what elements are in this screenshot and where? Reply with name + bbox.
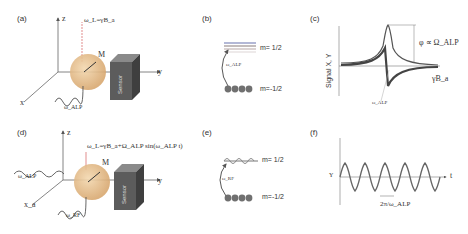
resonance-label: ω_ALP: [372, 100, 387, 105]
phase-annotation: φ ∝ Ω_ALP: [419, 38, 459, 47]
panel-a-label: (a): [17, 14, 27, 23]
period-label: 2π/ω_ALP: [380, 200, 410, 208]
signal-ylabel: Signal X, Y: [325, 53, 332, 88]
rf-label: ω_RF: [66, 212, 80, 218]
sensor-label-d: Sensor: [121, 185, 127, 204]
y-axis-label: y: [158, 67, 162, 76]
x-axis: [24, 72, 58, 102]
z-axis-label: z: [62, 14, 66, 23]
moment-label-d: M: [102, 158, 109, 167]
transition-label: ω_ALP: [226, 62, 241, 67]
panel-f: [340, 138, 446, 205]
rf-transition-label: ω_RF: [222, 176, 234, 181]
panel-a: [24, 18, 160, 106]
panel-c-label: (c): [310, 14, 319, 23]
sensor-box-d: [114, 164, 144, 210]
panel-e-label: (e): [202, 128, 212, 137]
larmor-equation-d: ω_L=γB_a+Ω_ALP sin(ω_ALP t): [87, 142, 183, 150]
t-xlabel: t: [450, 171, 452, 180]
signal-y-curve: [341, 48, 438, 86]
upper-level-label-e: m= 1/2: [262, 156, 284, 163]
y-axis-label-d: y: [158, 176, 162, 185]
x-axis-label: x: [20, 98, 24, 107]
figure-canvas: [0, 0, 468, 234]
panel-f-label: (f): [310, 128, 318, 137]
sensor-label: Sensor: [117, 75, 123, 94]
atom-sphere: [70, 54, 106, 90]
x-axis-label-d: x_a: [24, 200, 36, 209]
panel-b-label: (b): [202, 14, 212, 23]
moment-label: M: [98, 50, 105, 59]
signal-xlabel: γB_a: [432, 74, 448, 83]
sensor-box: [110, 54, 140, 100]
upper-level-label: m= 1/2: [260, 44, 282, 51]
panel-d-label: (d): [17, 128, 27, 137]
alp-label: ω_ALP: [64, 104, 82, 110]
atoms-lower: [225, 86, 253, 93]
lower-level-label: m=-1/2: [260, 85, 282, 92]
transition-arrow: [222, 50, 228, 86]
panel-c: [339, 25, 440, 101]
alp-wave: [55, 86, 83, 106]
z-axis-label-d: z: [67, 128, 71, 137]
lower-level-label-e: m=-1/2: [262, 193, 284, 200]
alp-label-d: ω_ALP: [18, 173, 36, 179]
y-ylabel: Y: [329, 172, 333, 178]
larmor-equation: ω_L=γB_a: [84, 16, 115, 24]
panel-b: [222, 43, 256, 92]
